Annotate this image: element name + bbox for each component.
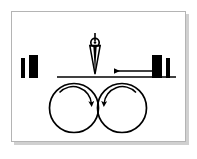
left-blade-thick — [29, 55, 38, 78]
right-blade-thick — [152, 55, 162, 78]
nozzle-collar-center-dot — [94, 41, 97, 44]
right-roller — [98, 84, 147, 133]
roller-group — [50, 84, 147, 133]
left-roller-rotation-arrow — [60, 87, 92, 104]
left-blade-thin — [21, 58, 25, 78]
roller-nip-diagram — [0, 0, 197, 159]
right-blade-thin — [166, 58, 170, 78]
right-blade-group — [152, 55, 170, 78]
left-roller — [50, 84, 99, 133]
nozzle-applicator-group — [90, 33, 100, 74]
right-roller-rotation-arrow — [104, 87, 136, 104]
left-blade-group — [21, 55, 38, 78]
screenshot-root — [0, 0, 197, 159]
